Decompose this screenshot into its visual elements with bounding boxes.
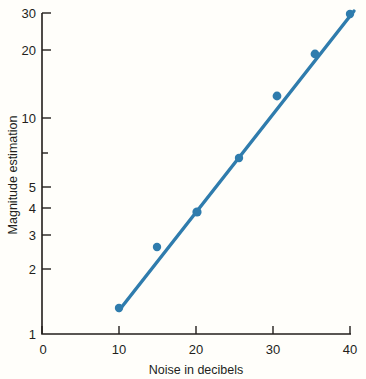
data-point: [273, 92, 282, 101]
x-tick-label-10: 10: [112, 342, 126, 357]
scatter-plot-svg: 30 20 10 5 4 3 2 1 0 10 20 30 40 Noise i…: [0, 0, 366, 379]
data-point: [192, 207, 201, 216]
y-tick-label-1: 1: [29, 327, 36, 342]
y-tick-label-5: 5: [29, 180, 36, 195]
x-tick-label-30: 30: [266, 342, 280, 357]
data-point: [153, 243, 161, 251]
x-tick-label-40: 40: [343, 342, 357, 357]
y-tick-label-2: 2: [29, 262, 36, 277]
y-tick-label-30: 30: [22, 6, 36, 21]
y-tick-label-20: 20: [22, 43, 36, 58]
x-axis-title: Noise in decibels: [149, 363, 244, 377]
data-point: [346, 10, 354, 18]
data-point: [311, 50, 320, 59]
y-tick-label-3: 3: [29, 228, 36, 243]
y-axis-ticks: [42, 13, 51, 269]
axis-lines: [42, 13, 351, 334]
data-point: [115, 304, 123, 312]
chart-figure: 30 20 10 5 4 3 2 1 0 10 20 30 40 Noise i…: [0, 0, 366, 379]
x-tick-label-0: 0: [39, 342, 46, 357]
x-tick-labels: 0 10 20 30 40: [39, 342, 357, 357]
y-tick-labels: 30 20 10 5 4 3 2 1: [22, 6, 36, 342]
y-tick-label-4: 4: [29, 201, 36, 216]
x-axis-ticks: [42, 326, 350, 334]
data-point: [235, 154, 243, 162]
x-tick-label-20: 20: [189, 342, 203, 357]
y-tick-label-10: 10: [22, 111, 36, 126]
y-axis-title: Magnitude estimation: [6, 116, 20, 235]
